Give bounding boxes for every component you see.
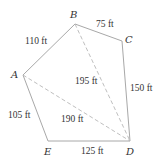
vertex-label-a: A [10, 69, 18, 80]
vertex-label-d: D [125, 146, 134, 157]
vertex-label-b: B [69, 9, 77, 20]
length-label-de: 125 ft [81, 146, 104, 156]
length-label-ab: 110 ft [25, 36, 47, 46]
length-label-ea: 105 ft [8, 110, 31, 120]
vertex-label-e: E [43, 146, 52, 157]
length-label-bd: 195 ft [75, 76, 98, 86]
length-label-cd: 150 ft [130, 83, 153, 93]
vertex-label-c: C [125, 34, 133, 45]
vertex-labels: ABCDE [10, 9, 134, 157]
length-label-bc: 75 ft [96, 19, 114, 29]
polygon-diagram: 110 ft75 ft150 ft125 ft105 ft195 ft190 f… [0, 0, 162, 163]
length-label-ad: 190 ft [61, 114, 84, 124]
